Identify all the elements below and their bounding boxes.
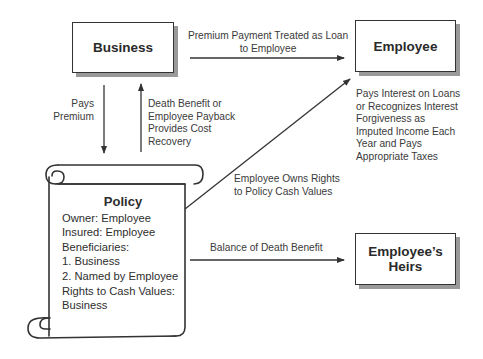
note-line: Appropriate Taxes [356, 151, 460, 164]
note-line: Forgiveness as [356, 113, 460, 126]
heirs-label-line2: Heirs [389, 259, 423, 274]
policy-line: Owner: Employee [62, 211, 184, 226]
heirs-label-line1: Employee’s [368, 244, 443, 259]
business-label: Business [93, 40, 153, 55]
edge-label-line: Pays [52, 98, 94, 111]
policy-details: Policy Owner: Employee Insured: Employee… [62, 195, 184, 313]
employee-node: Employee [355, 20, 456, 72]
note-line: Pays Interest on Loans [356, 88, 460, 101]
business-node: Business [72, 22, 174, 73]
edge-label-line: Premium [52, 111, 94, 124]
edge-label-pays-premium: Pays Premium [52, 98, 94, 123]
edge-label-policy-to-employee: Employee Owns Rights to Policy Cash Valu… [234, 173, 340, 198]
note-line: Imputed Income Each [356, 126, 460, 139]
note-line: or Recognizes Interest [356, 101, 460, 114]
edge-label-business-to-employee: Premium Payment Treated as Loan to Emplo… [186, 30, 350, 55]
edge-label-line: Death Benefit or [148, 98, 235, 111]
employee-label: Employee [374, 39, 438, 54]
edge-label-line: Employee Owns Rights [234, 173, 340, 186]
policy-line: Beneficiaries: [62, 240, 184, 255]
policy-line: Business [62, 298, 184, 313]
edge-label-line: to Employee [186, 43, 350, 56]
policy-line: 2. Named by Employee [62, 269, 184, 284]
edge-label-line: Balance of Death Benefit [210, 242, 323, 255]
note-line: Year and Pays [356, 138, 460, 151]
edge-label-policy-to-heirs: Balance of Death Benefit [210, 242, 323, 255]
edge-label-line: Premium Payment Treated as Loan [186, 30, 350, 43]
policy-line: 1. Business [62, 254, 184, 269]
edge-label-line: Recovery [148, 136, 235, 149]
policy-title: Policy [62, 195, 184, 210]
heirs-node: Employee’s Heirs [355, 233, 456, 285]
edge-label-death-benefit: Death Benefit or Employee Payback Provid… [148, 98, 235, 148]
edge-label-line: Employee Payback [148, 111, 235, 124]
edge-label-line: Provides Cost [148, 123, 235, 136]
edge-label-line: to Policy Cash Values [234, 186, 340, 199]
policy-line: Rights to Cash Values: [62, 284, 184, 299]
employee-note: Pays Interest on Loans or Recognizes Int… [356, 88, 460, 164]
policy-line: Insured: Employee [62, 225, 184, 240]
